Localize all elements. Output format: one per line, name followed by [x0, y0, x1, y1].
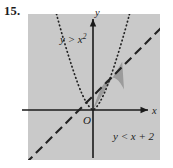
parabola-inequality-text: y > x: [59, 33, 83, 45]
x-axis-label: x: [151, 105, 157, 116]
parabola-inequality-label: y > x2: [59, 32, 87, 45]
parabola-inequality-exponent: 2: [83, 32, 87, 41]
line-inequality-label: y < x + 2: [112, 130, 155, 142]
y-axis-label: y: [94, 7, 100, 18]
origin-label: O: [83, 114, 91, 126]
figure-page: 15.: [0, 0, 173, 168]
inequality-graph-figure: y > x2 y < x + 2 O x y: [0, 0, 173, 168]
